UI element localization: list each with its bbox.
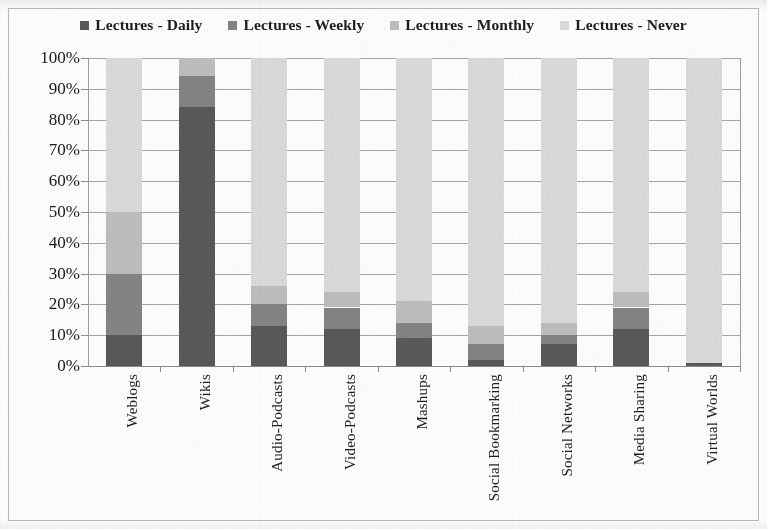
- stacked-bar[interactable]: [106, 58, 142, 366]
- y-axis-tick-label: 0%: [4, 356, 80, 376]
- bar-segment[interactable]: [106, 58, 142, 212]
- y-axis-tick-label: 10%: [4, 325, 80, 345]
- x-axis-slot: Audio-Podcasts: [233, 372, 305, 522]
- y-axis-tick-mark: [81, 120, 88, 121]
- x-axis-slot: Mashups: [378, 372, 450, 522]
- x-axis-tick-label: Media Sharing: [631, 374, 648, 465]
- y-axis-tick-mark: [81, 212, 88, 213]
- y-axis-tick-mark: [81, 304, 88, 305]
- stacked-bar[interactable]: [686, 58, 722, 366]
- bar-segment[interactable]: [468, 360, 504, 366]
- bar-segment[interactable]: [324, 308, 360, 330]
- bar-segment[interactable]: [686, 58, 722, 363]
- y-axis-tick-label: 70%: [4, 140, 80, 160]
- x-axis-tick-label: Mashups: [414, 374, 431, 430]
- bar-slot: [88, 58, 160, 366]
- bar-segment[interactable]: [541, 58, 577, 323]
- bar-segment[interactable]: [396, 301, 432, 323]
- y-axis-tick-label: 60%: [4, 171, 80, 191]
- bar-segment[interactable]: [468, 326, 504, 344]
- stacked-bar[interactable]: [468, 58, 504, 366]
- bar-slot: [450, 58, 522, 366]
- bar-segment[interactable]: [613, 329, 649, 366]
- bar-segment[interactable]: [613, 308, 649, 330]
- bar-segment[interactable]: [106, 274, 142, 336]
- bar-segment[interactable]: [251, 304, 287, 326]
- bar-segment[interactable]: [396, 323, 432, 338]
- bar-segment[interactable]: [179, 107, 215, 366]
- bar-segment[interactable]: [541, 344, 577, 366]
- y-axis-tick-mark: [81, 150, 88, 151]
- x-axis-tick-label: Video-Podcasts: [342, 374, 359, 470]
- y-axis-tick-label: 80%: [4, 110, 80, 130]
- y-axis-tick-label: 100%: [4, 48, 80, 68]
- legend-item[interactable]: Lectures - Monthly: [390, 16, 534, 34]
- stacked-bar[interactable]: [613, 58, 649, 366]
- y-axis-tick-mark: [81, 89, 88, 90]
- bar-segment[interactable]: [324, 329, 360, 366]
- bar-segment[interactable]: [251, 326, 287, 366]
- y-axis-tick-label: 20%: [4, 294, 80, 314]
- bar-segment[interactable]: [613, 292, 649, 307]
- bar-slot: [668, 58, 740, 366]
- bar-segment[interactable]: [613, 58, 649, 292]
- legend-swatch-icon: [80, 21, 89, 30]
- bar-segment[interactable]: [686, 363, 722, 366]
- y-axis-tick-mark: [81, 274, 88, 275]
- bar-segment[interactable]: [251, 286, 287, 304]
- legend-swatch-icon: [228, 21, 237, 30]
- x-axis-tick-label: Social Bookmarking: [486, 374, 503, 501]
- x-axis-tick-label: Weblogs: [124, 374, 141, 428]
- x-axis-slot: Wikis: [160, 372, 232, 522]
- bar-segment[interactable]: [179, 58, 215, 76]
- y-axis-tick-mark: [81, 335, 88, 336]
- bar-segment[interactable]: [324, 58, 360, 292]
- chart-legend: Lectures - DailyLectures - WeeklyLecture…: [0, 16, 767, 34]
- bar-segment[interactable]: [541, 323, 577, 335]
- bar-segment[interactable]: [324, 292, 360, 307]
- legend-item-label: Lectures - Monthly: [405, 16, 534, 34]
- legend-item[interactable]: Lectures - Daily: [80, 16, 202, 34]
- bar-slot: [595, 58, 667, 366]
- y-axis-tick-mark: [81, 58, 88, 59]
- bar-segment[interactable]: [396, 338, 432, 366]
- stacked-bar[interactable]: [324, 58, 360, 366]
- bar-segment[interactable]: [106, 212, 142, 274]
- bar-segment[interactable]: [468, 344, 504, 359]
- x-axis-slot: Virtual Worlds: [668, 372, 740, 522]
- stacked-bar[interactable]: [396, 58, 432, 366]
- y-axis-tick-label: 90%: [4, 79, 80, 99]
- y-axis-labels: 100%90%80%70%60%50%40%30%20%10%0%: [0, 0, 80, 529]
- legend-item-label: Lectures - Never: [575, 16, 687, 34]
- x-axis-tick-label: Social Networks: [559, 374, 576, 477]
- stacked-bar[interactable]: [251, 58, 287, 366]
- x-axis-tick-label: Wikis: [197, 374, 214, 410]
- bar-segment[interactable]: [396, 58, 432, 301]
- x-axis-slot: Media Sharing: [595, 372, 667, 522]
- stacked-bar[interactable]: [541, 58, 577, 366]
- y-axis-line: [88, 58, 89, 367]
- x-axis-tick-label: Virtual Worlds: [704, 374, 721, 465]
- legend-item[interactable]: Lectures - Weekly: [228, 16, 364, 34]
- y-axis-tick-label: 50%: [4, 202, 80, 222]
- legend-item-label: Lectures - Daily: [95, 16, 202, 34]
- chart-figure: Lectures - DailyLectures - WeeklyLecture…: [0, 0, 767, 529]
- bar-segment[interactable]: [541, 335, 577, 344]
- bar-slot: [378, 58, 450, 366]
- bar-segment[interactable]: [251, 58, 287, 286]
- x-axis-labels: WeblogsWikisAudio-PodcastsVideo-Podcasts…: [88, 372, 740, 522]
- bar-segment[interactable]: [179, 76, 215, 107]
- y-axis-tick-label: 40%: [4, 233, 80, 253]
- y-axis-tick-label: 30%: [4, 264, 80, 284]
- legend-swatch-icon: [560, 21, 569, 30]
- y-axis-tick-mark: [81, 181, 88, 182]
- bar-segment[interactable]: [106, 335, 142, 366]
- stacked-bar[interactable]: [179, 58, 215, 366]
- bar-slot: [305, 58, 377, 366]
- y-axis-tick-mark: [81, 243, 88, 244]
- legend-swatch-icon: [390, 21, 399, 30]
- x-axis-slot: Weblogs: [88, 372, 160, 522]
- bar-series-group: [88, 58, 740, 366]
- legend-item[interactable]: Lectures - Never: [560, 16, 687, 34]
- bar-segment[interactable]: [468, 58, 504, 326]
